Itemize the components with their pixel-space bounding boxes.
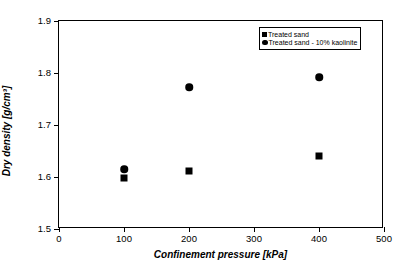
chart-legend: Treated sandTreated sand - 10% kaolinite	[259, 27, 361, 50]
x-tick-label: 500	[376, 234, 392, 244]
x-tick-mark	[189, 227, 190, 232]
x-tick-mark	[384, 227, 385, 232]
data-point-square	[186, 168, 193, 175]
y-tick-label: 1.9	[38, 16, 51, 26]
legend-marker-circle-icon	[262, 40, 268, 46]
x-tick-mark	[254, 227, 255, 232]
chart-figure: 1.51.61.71.81.9 0100200300400500 Treated…	[0, 0, 405, 272]
plot-area: 1.51.61.71.81.9 0100200300400500 Treated…	[58, 20, 383, 228]
legend-item: Treated sand	[262, 31, 357, 38]
y-tick-label: 1.5	[38, 224, 51, 234]
data-point-square	[121, 175, 128, 182]
y-tick-mark	[54, 21, 59, 22]
data-point-circle	[315, 73, 323, 81]
data-point-square	[316, 153, 323, 160]
x-tick-mark	[124, 227, 125, 232]
x-tick-label: 300	[246, 234, 262, 244]
y-axis-title: Dry density [g/cm³]	[0, 27, 14, 235]
legend-marker-square-icon	[262, 32, 267, 37]
y-tick-mark	[54, 73, 59, 74]
x-tick-label: 200	[181, 234, 197, 244]
legend-label: Treated sand	[268, 31, 309, 38]
legend-label: Treated sand - 10% kaolinite	[269, 39, 358, 46]
y-tick-mark	[54, 125, 59, 126]
legend-item: Treated sand - 10% kaolinite	[262, 39, 357, 46]
data-point-circle	[120, 165, 128, 173]
y-tick-mark	[54, 177, 59, 178]
y-tick-label: 1.7	[38, 120, 51, 130]
x-axis-title: Confinement pressure [kPa]	[58, 250, 383, 260]
y-tick-label: 1.6	[38, 172, 51, 182]
x-tick-label: 400	[311, 234, 327, 244]
x-tick-label: 100	[116, 234, 132, 244]
x-tick-mark	[59, 227, 60, 232]
data-point-circle	[185, 83, 193, 91]
x-tick-label: 0	[56, 234, 61, 244]
x-tick-mark	[319, 227, 320, 232]
y-tick-label: 1.8	[38, 68, 51, 78]
